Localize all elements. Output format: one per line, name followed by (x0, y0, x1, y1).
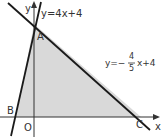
coordinate-diagram: y x O A B C y=4x+4 y=− 4 5 x+4 (0, 0, 166, 137)
point-c-label: C (136, 119, 143, 130)
origin-label: O (24, 122, 32, 133)
x-axis-label: x (155, 121, 161, 132)
line2-equation-suffix: x+4 (137, 58, 156, 68)
line2-equation-prefix: y=− (105, 58, 125, 68)
line2-numerator: 4 (129, 52, 134, 61)
y-axis-arrow-icon (31, 1, 37, 8)
shaded-triangle-abc (16, 24, 141, 117)
point-b-label: B (7, 105, 14, 116)
diagram-svg: y x O A B C y=4x+4 y=− 4 5 x+4 (0, 0, 166, 137)
line1-equation: y=4x+4 (41, 8, 82, 19)
y-axis-label: y (25, 3, 31, 14)
line2-denominator: 5 (129, 64, 134, 73)
x-axis-arrow-icon (153, 114, 160, 120)
point-a-label: A (37, 31, 44, 42)
